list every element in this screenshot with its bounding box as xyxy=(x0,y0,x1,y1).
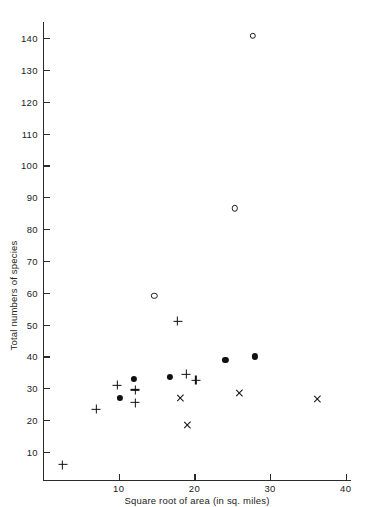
x-axis-title: Square root of area (in sq. miles) xyxy=(43,495,351,506)
y-tick-label: 120 xyxy=(0,96,38,107)
y-tick-label: 110 xyxy=(0,128,38,139)
y-tick-label: 130 xyxy=(0,64,38,75)
x-axis-line xyxy=(43,480,351,481)
x-tick-label: 10 xyxy=(106,483,132,494)
x-tick-mark xyxy=(270,474,271,480)
data-point-filled-circle xyxy=(252,353,258,359)
y-axis-title: Total numbers of species xyxy=(8,221,19,371)
data-point-filled-circle xyxy=(116,395,122,401)
data-point-filled-circle xyxy=(131,376,137,382)
y-tick-mark xyxy=(44,261,50,262)
y-tick-mark xyxy=(44,388,50,389)
y-tick-label: 80 xyxy=(0,224,38,235)
y-tick-mark xyxy=(44,165,50,166)
y-tick-mark xyxy=(44,420,50,421)
y-tick-label: 140 xyxy=(0,32,38,43)
data-point-filled-circle xyxy=(222,357,228,363)
y-tick-mark xyxy=(44,70,50,71)
y-tick-mark xyxy=(44,134,50,135)
y-tick-mark xyxy=(44,356,50,357)
y-tick-label: 20 xyxy=(0,415,38,426)
data-point-plus xyxy=(113,381,122,390)
y-tick-label: 100 xyxy=(0,160,38,171)
x-tick-label: 20 xyxy=(181,483,207,494)
x-tick-mark xyxy=(194,474,195,480)
x-tick-mark xyxy=(119,474,120,480)
data-point-cross xyxy=(176,393,185,402)
y-axis-line xyxy=(43,22,44,481)
data-point-plus xyxy=(182,370,191,379)
y-tick-mark xyxy=(44,197,50,198)
data-point-open-circle xyxy=(151,293,157,299)
data-point-open-circle xyxy=(249,32,255,38)
data-point-plus xyxy=(191,376,200,385)
y-tick-label: 60 xyxy=(0,287,38,298)
y-tick-mark xyxy=(44,229,50,230)
y-tick-label: 40 xyxy=(0,351,38,362)
data-point-open-circle xyxy=(231,205,237,211)
y-tick-mark xyxy=(44,452,50,453)
data-point-filled-circle xyxy=(167,374,173,380)
y-tick-mark xyxy=(44,102,50,103)
scatter-plot-figure: 102030405060708090100110120130140 102030… xyxy=(0,0,365,507)
data-point-cross xyxy=(183,420,192,429)
y-tick-mark xyxy=(44,293,50,294)
x-tick-mark xyxy=(346,474,347,480)
data-point-plus xyxy=(131,398,140,407)
y-tick-label: 10 xyxy=(0,447,38,458)
data-point-cross xyxy=(313,395,322,404)
x-tick-label: 40 xyxy=(333,483,359,494)
x-tick-label: 30 xyxy=(257,483,283,494)
data-point-cross xyxy=(235,389,244,398)
y-tick-label: 90 xyxy=(0,192,38,203)
y-tick-mark xyxy=(44,325,50,326)
y-tick-label: 30 xyxy=(0,383,38,394)
data-point-plus xyxy=(92,405,101,414)
data-point-plus xyxy=(173,317,182,326)
y-tick-label: 50 xyxy=(0,319,38,330)
data-point-plus xyxy=(131,385,140,394)
y-tick-label: 70 xyxy=(0,255,38,266)
y-tick-mark xyxy=(44,38,50,39)
data-point-plus xyxy=(58,460,67,469)
